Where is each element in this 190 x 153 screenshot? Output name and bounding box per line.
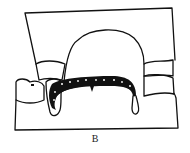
right-abutment <box>132 96 139 114</box>
dental-diagram <box>0 0 190 153</box>
palate-arch <box>64 30 144 82</box>
figure-label: B <box>88 133 102 144</box>
upper-jaw-outline <box>25 8 175 64</box>
prosthesis-saddle <box>49 76 136 110</box>
right-lower-tooth <box>144 75 174 96</box>
left-molar <box>16 79 44 103</box>
lower-jaw-outline <box>15 93 178 130</box>
saddle-notch <box>90 86 94 92</box>
right-upper-tooth <box>144 60 173 76</box>
molar-mark <box>31 84 34 86</box>
left-upper-tooth <box>36 61 65 80</box>
